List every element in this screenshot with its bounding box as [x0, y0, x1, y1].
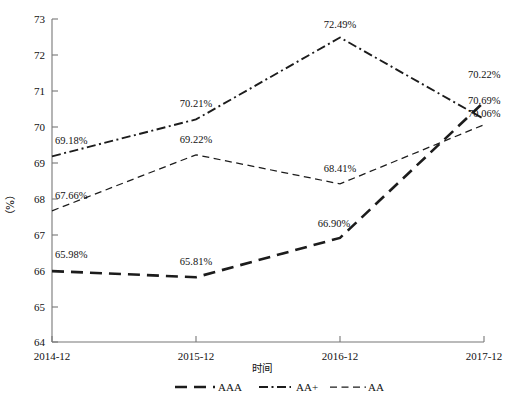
data-label-aaa-2016: 66.90%: [318, 218, 351, 229]
line-chart: 73 72 71 70 69 68 67 66 65 64 （%） 2014-1…: [0, 0, 520, 407]
y-tick-label-73: 73: [34, 13, 46, 25]
y-tick-label-70: 70: [34, 121, 46, 133]
y-tick-label-66: 66: [34, 265, 46, 277]
data-label-aaa-2015: 65.81%: [180, 256, 213, 267]
legend-label-aa: AA: [368, 381, 384, 393]
legend-label-aa-plus: AA+: [296, 381, 318, 393]
x-tick-label-2015: 2015-12: [178, 350, 215, 362]
x-tick-label-2016: 2016-12: [322, 350, 359, 362]
data-label-aa-2014: 67.66%: [55, 190, 88, 201]
y-tick-label-69: 69: [34, 157, 46, 169]
x-axis-title: 时间: [252, 362, 272, 374]
y-tick-label-71: 71: [34, 85, 45, 97]
data-label-aaplus-2015: 70.21%: [180, 98, 213, 109]
x-tick-label-2014: 2014-12: [34, 350, 71, 362]
y-tick-label-68: 68: [34, 193, 46, 205]
y-axis-title: （%）: [4, 190, 16, 220]
data-label-aaplus-2016: 72.49%: [324, 19, 357, 30]
data-label-aa-2016: 68.41%: [324, 163, 357, 174]
data-label-aaa-2017: 70.69%: [468, 95, 501, 106]
data-label-aaa-2014: 65.98%: [55, 249, 88, 260]
data-label-aaplus-2017: 70.22%: [468, 69, 501, 80]
data-label-aaplus-2014: 69.18%: [55, 135, 88, 146]
chart-background: [0, 0, 520, 407]
data-label-aa-2017: 70.06%: [468, 108, 501, 119]
y-tick-label-67: 67: [34, 229, 46, 241]
y-tick-label-64: 64: [34, 336, 46, 348]
y-tick-label-72: 72: [34, 49, 45, 61]
x-tick-label-2017: 2017-12: [466, 350, 503, 362]
y-tick-label-65: 65: [34, 301, 46, 313]
legend-label-aaa: AAA: [218, 381, 242, 393]
data-label-aa-2015: 69.22%: [180, 134, 213, 145]
